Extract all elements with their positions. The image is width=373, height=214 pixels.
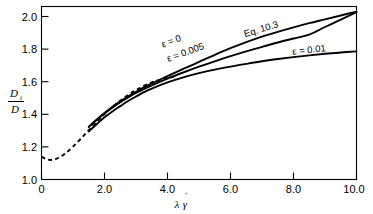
x-tick-label-5: 10.0 [343,183,364,195]
y-axis-title-numerator: D [9,87,18,99]
x-tick-label-4: 8.0 [286,183,301,195]
y-axis-title-denominator: D [10,103,19,115]
x-axis-tick-labels: 0 2.0 4.0 6.0 8.0 10.0 [38,183,364,195]
annotation-0: ε = 0 [160,32,183,49]
y-tick-label-3: 1.6 [22,76,37,88]
plot-frame [42,7,357,180]
curve-series-3 [89,51,357,131]
y-axis-tick-labels: 1.0 1.2 1.4 1.6 1.8 2.0 [22,11,37,186]
x-axis-ticks [42,173,357,180]
x-axis-title-lambda: λ [174,198,180,210]
x-tick-label-1: 2.0 [97,183,112,195]
y-axis-ticks [42,17,49,180]
x-axis-title: λ γ ˙ [174,190,188,210]
x-axis-title-gamma-dot: ˙ [184,190,188,202]
chart-canvas: 1.0 1.2 1.4 1.6 1.8 2.0 0 2.0 4.0 6.0 8.… [0,0,373,214]
curve-series-1 [89,12,357,127]
curve-group [42,12,357,160]
x-tick-label-0: 0 [38,183,44,195]
figure-container: 1.0 1.2 1.4 1.6 1.8 2.0 0 2.0 4.0 6.0 8.… [0,0,373,214]
curve-series-2 [89,12,357,127]
curve-series-0 [42,77,174,160]
y-tick-label-1: 1.2 [22,141,37,153]
y-tick-label-0: 1.0 [22,174,37,186]
x-tick-label-2: 4.0 [160,183,175,195]
y-tick-label-5: 2.0 [22,11,37,23]
x-tick-label-3: 6.0 [223,183,238,195]
y-axis-title-subscript: i [20,94,22,102]
y-tick-label-4: 1.8 [22,43,37,55]
y-tick-label-2: 1.4 [22,108,37,120]
